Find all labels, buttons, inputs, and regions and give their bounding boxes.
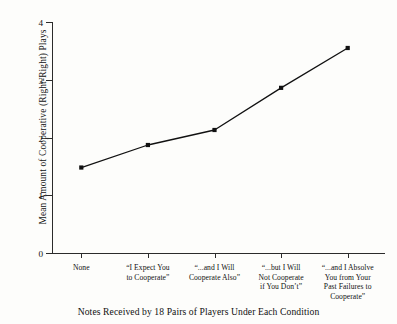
series-marker-group	[79, 46, 350, 170]
data-point-marker	[79, 165, 83, 169]
data-point-marker	[279, 86, 283, 90]
data-point-marker	[346, 46, 350, 50]
figure: Mean Amount of Cooperative (Right-Right)…	[0, 0, 397, 324]
data-point-marker	[212, 128, 216, 132]
data-series	[0, 0, 397, 324]
series-line	[81, 48, 347, 168]
figure-caption: Notes Received by 18 Pairs of Players Un…	[0, 306, 397, 317]
data-point-marker	[146, 143, 150, 147]
